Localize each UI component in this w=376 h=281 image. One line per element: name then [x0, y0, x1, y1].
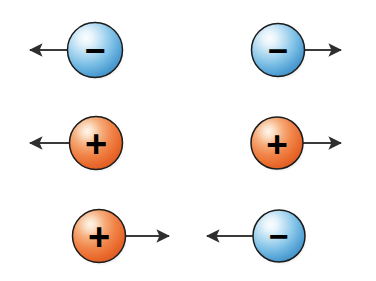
charge-sign-1: − [84, 30, 105, 71]
background [0, 0, 376, 281]
particles-svg: − − + + + [0, 0, 376, 281]
charge-sign-4: + [266, 124, 288, 165]
charge-sign-5: + [88, 216, 110, 258]
charge-sign-6: − [269, 217, 289, 255]
diagram-canvas: Charged particles with velocity arrows [0, 0, 376, 281]
charge-sign-2: − [268, 31, 288, 70]
charge-sign-3: + [85, 123, 107, 165]
